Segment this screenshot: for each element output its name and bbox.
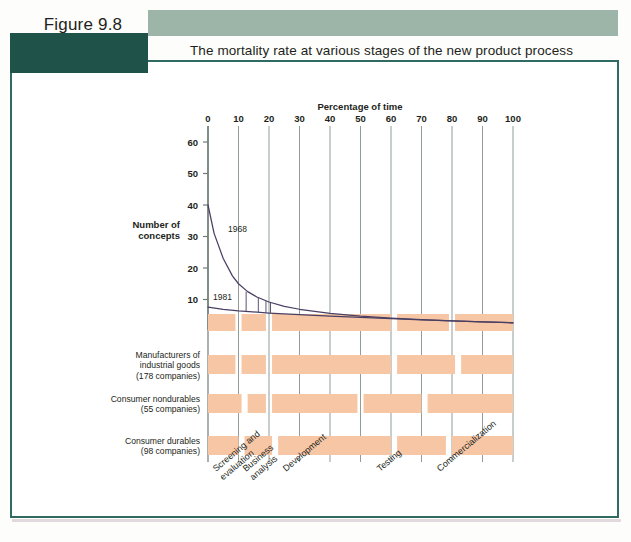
figure-page: Figure 9.8 The mortality rate at various… [0,0,631,542]
header-band-dark [10,33,148,73]
figure-title: The mortality rate at various stages of … [190,42,610,60]
figure-frame [10,60,619,518]
header-band-light [148,10,618,36]
figure-frame-shadow [12,519,621,522]
figure-number-label: Figure 9.8 [18,12,148,38]
